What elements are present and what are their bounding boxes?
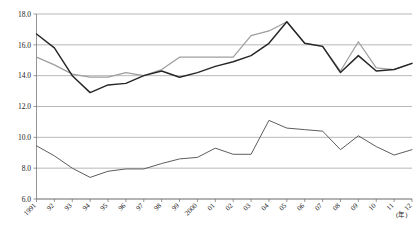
x-tick-label: 94 — [81, 201, 92, 212]
y-tick-label: 10.0 — [18, 133, 31, 142]
x-tick-label: 10 — [367, 201, 378, 212]
gridlines — [37, 14, 413, 199]
y-tick-label: 16.0 — [18, 41, 31, 50]
series-line-gray-upper — [37, 22, 413, 78]
x-tick-marks — [37, 199, 413, 202]
y-tick-labels: 18.016.014.012.010.08.06.0 — [18, 10, 37, 204]
y-tick-label: 14.0 — [18, 71, 31, 80]
y-tick-label: 18.0 — [18, 10, 31, 19]
x-tick-label: 07 — [313, 201, 324, 212]
x-tick-label: 02 — [224, 201, 235, 212]
x-tick-label: 04 — [260, 201, 271, 212]
x-tick-label: 98 — [152, 201, 163, 212]
x-tick-label: 09 — [349, 201, 360, 212]
series-line-lower — [37, 120, 413, 177]
x-tick-label: 93 — [63, 201, 74, 212]
x-tick-label: 08 — [331, 201, 342, 212]
x-tick-label: 05 — [278, 201, 289, 212]
y-tick-label: 12.0 — [18, 102, 31, 111]
x-tick-label: 99 — [170, 201, 181, 212]
x-tick-labels: 1991929394959697989920000102030405060708… — [22, 201, 413, 217]
x-tick-label: 97 — [135, 201, 146, 212]
x-tick-label: 2000 — [183, 201, 199, 217]
x-tick-label: 95 — [99, 201, 110, 212]
x-tick-label: 11 — [385, 201, 396, 212]
x-tick-label: 03 — [242, 201, 253, 212]
y-tick-label: 6.0 — [22, 195, 32, 204]
x-tick-label: 06 — [296, 201, 307, 212]
x-tick-label: 96 — [117, 201, 128, 212]
x-tick-label: 01 — [206, 201, 217, 212]
chart-container: 18.016.014.012.010.08.06.0 1991929394959… — [0, 0, 419, 226]
x-tick-label: 92 — [45, 201, 56, 212]
line-chart: 18.016.014.012.010.08.06.0 1991929394959… — [0, 0, 419, 226]
y-tick-label: 8.0 — [22, 164, 32, 173]
x-axis-unit-label: (年) — [396, 210, 407, 219]
